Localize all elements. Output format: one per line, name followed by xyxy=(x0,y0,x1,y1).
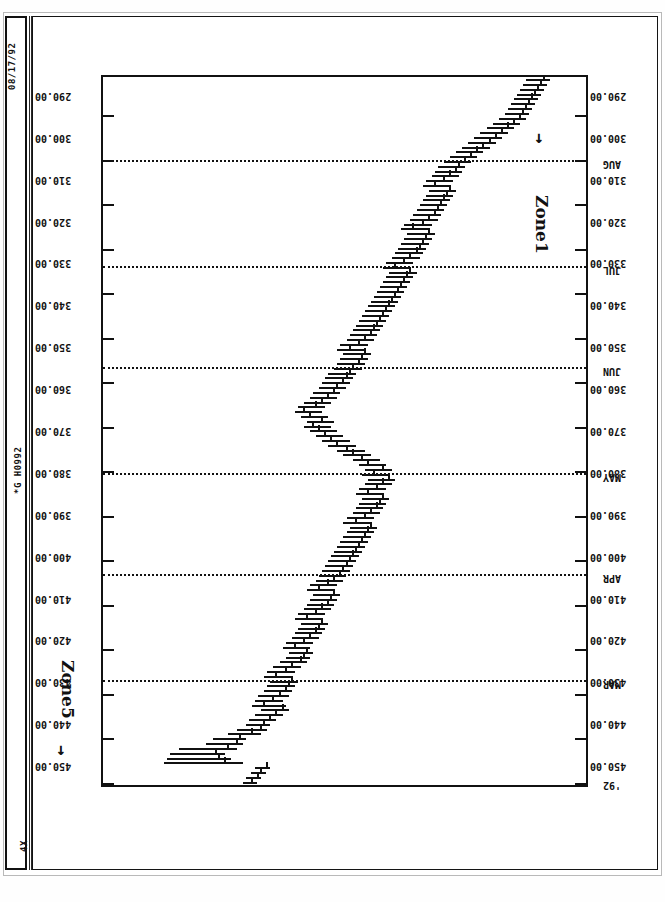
ohlc-bar xyxy=(301,623,328,625)
ohlc-bar xyxy=(444,161,471,163)
ohlc-bar xyxy=(337,450,364,452)
axis-tick xyxy=(575,160,586,162)
ohlc-bar xyxy=(343,536,370,538)
axis-tick xyxy=(103,605,114,607)
axis-tick xyxy=(103,383,114,385)
ohlc-bar xyxy=(322,440,349,442)
ohlc-bar xyxy=(206,743,243,745)
gridline-month xyxy=(103,680,586,682)
ohlc-bar xyxy=(328,445,355,447)
ohlc-bar xyxy=(255,700,282,702)
ohlc-bar xyxy=(246,724,270,726)
gridline-month xyxy=(103,266,586,268)
axis-tick xyxy=(103,783,114,785)
price-tick-label: 400.00 xyxy=(35,551,71,562)
ohlc-bar xyxy=(295,411,322,413)
axis-tick xyxy=(575,783,586,785)
divider-hairline-left xyxy=(29,16,30,870)
ohlc-bar xyxy=(264,690,291,692)
ohlc-bar xyxy=(404,238,431,240)
ohlc-bar xyxy=(511,103,535,105)
ohlc-bar xyxy=(407,233,434,235)
ohlc-bar xyxy=(304,608,331,610)
price-tick-label: 290.00 xyxy=(35,90,71,101)
ohlc-bar xyxy=(258,695,288,697)
ohlc-bar xyxy=(295,618,322,620)
ohlc-bar xyxy=(468,142,495,144)
ohlc-bar xyxy=(450,156,477,158)
ohlc-bar xyxy=(362,315,389,317)
ohlc-bar xyxy=(401,243,428,245)
ohlc-bar xyxy=(310,397,337,399)
ohlc-bar xyxy=(289,652,313,654)
ohlc-bar xyxy=(328,560,355,562)
ohlc-bar xyxy=(264,676,291,678)
price-tick-label: 390.00 xyxy=(35,509,71,520)
ohlc-bar xyxy=(389,272,416,274)
ohlc-bar xyxy=(252,705,285,707)
ohlc-bar xyxy=(310,599,337,601)
ohlc-bar xyxy=(365,310,392,312)
axis-tick xyxy=(575,427,586,429)
zone-annotation-label: Zone5 xyxy=(58,660,78,719)
ohlc-bar xyxy=(301,416,328,418)
price-tick-label: 450.00 xyxy=(35,761,71,772)
ohlc-bar xyxy=(398,248,425,250)
axis-tick xyxy=(103,472,114,474)
ohlc-bar xyxy=(377,291,404,293)
axis-tick xyxy=(575,116,586,118)
ohlc-bar xyxy=(383,281,410,283)
ohlc-bar xyxy=(228,734,261,736)
month-tick-label: MAY xyxy=(603,471,621,482)
ohlc-bar xyxy=(350,334,377,336)
ohlc-bar xyxy=(365,469,392,471)
ohlc-bar xyxy=(480,132,507,134)
price-tick-label: 310.00 xyxy=(35,174,71,185)
ohlc-bar xyxy=(401,228,428,230)
ohlc-bar xyxy=(353,459,380,461)
ohlc-bar xyxy=(353,512,380,514)
axis-tick xyxy=(103,516,114,518)
ohlc-bar xyxy=(508,108,532,110)
ohlc-bar xyxy=(383,267,410,269)
ohlc-bar xyxy=(347,517,374,519)
axis-tick xyxy=(103,116,114,118)
ohlc-bar xyxy=(319,387,346,389)
ohlc-bar xyxy=(359,464,386,466)
ohlc-bar xyxy=(304,402,331,404)
axis-tick xyxy=(575,739,586,741)
axis-tick xyxy=(575,294,586,296)
axis-tick xyxy=(575,205,586,207)
ohlc-bar xyxy=(267,671,294,673)
ohlc-bar xyxy=(359,488,386,490)
ohlc-bar xyxy=(334,551,361,553)
axis-tick xyxy=(103,160,114,162)
ohlc-bar xyxy=(322,570,349,572)
ohlc-bar xyxy=(392,257,419,259)
axis-tick xyxy=(103,427,114,429)
axis-tick xyxy=(103,205,114,207)
ohlc-bar xyxy=(505,113,529,115)
ohlc-bar xyxy=(432,175,459,177)
axis-tick xyxy=(575,338,586,340)
axis-tick xyxy=(575,516,586,518)
ohlc-bar xyxy=(413,214,440,216)
price-tick-label: 350.00 xyxy=(35,342,71,353)
ohlc-bar xyxy=(170,753,225,755)
ohlc-bar xyxy=(487,127,514,129)
scale-label: 4X xyxy=(7,824,29,868)
ohlc-bar xyxy=(347,339,374,341)
gridline-month xyxy=(103,473,586,475)
price-tick-label: 370.00 xyxy=(35,426,71,437)
ohlc-bar xyxy=(286,657,310,659)
ohlc-bar xyxy=(322,382,349,384)
month-tick-label: AUG xyxy=(603,159,621,170)
ohlc-bar xyxy=(359,320,386,322)
ohlc-bar xyxy=(362,474,389,476)
axis-tick xyxy=(103,249,114,251)
ohlc-bar xyxy=(273,666,300,668)
price-tick-label: 360.00 xyxy=(35,384,71,395)
ohlc-bar xyxy=(319,575,346,577)
axis-tick xyxy=(103,338,114,340)
ohlc-bar xyxy=(340,344,367,346)
